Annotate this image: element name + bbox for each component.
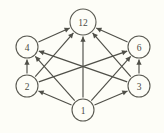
edge-3-to-6 <box>136 60 141 74</box>
node-label: 1 <box>81 106 86 116</box>
arrow-head-icon <box>24 60 29 65</box>
edge-1-to-3 <box>94 91 127 105</box>
edge-1-to-2 <box>38 91 71 105</box>
arrow-head-icon <box>136 60 141 65</box>
arrow-head-icon <box>121 50 127 55</box>
edge-2-to-12 <box>35 33 73 77</box>
edge-2-to-4 <box>24 60 29 74</box>
edge-6-to-12 <box>96 28 127 42</box>
edge-line <box>94 91 127 105</box>
edge-4-to-12 <box>38 28 69 42</box>
node-12[interactable]: 12 <box>70 9 96 35</box>
node-3[interactable]: 3 <box>128 75 150 97</box>
node-1[interactable]: 1 <box>72 99 94 121</box>
diagram-canvas: 1246231 <box>0 0 164 133</box>
node-label: 12 <box>78 18 88 28</box>
node-label: 2 <box>25 82 30 92</box>
node-label: 4 <box>25 43 30 53</box>
node-4[interactable]: 4 <box>16 36 38 58</box>
edge-line <box>93 33 131 77</box>
arrow-head-icon <box>39 50 45 55</box>
edge-3-to-12 <box>93 33 131 77</box>
edge-line <box>38 91 71 105</box>
node-label: 6 <box>137 43 142 53</box>
node-2[interactable]: 2 <box>16 75 38 97</box>
arrow-head-icon <box>80 37 85 42</box>
node-6[interactable]: 6 <box>128 36 150 58</box>
graph-svg: 1246231 <box>0 0 164 133</box>
edge-line <box>35 33 73 77</box>
edges-layer <box>24 28 141 105</box>
node-label: 3 <box>137 82 142 92</box>
